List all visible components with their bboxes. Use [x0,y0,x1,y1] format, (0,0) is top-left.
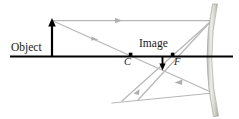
object-label: Object [11,42,42,54]
object-arrow [48,18,56,57]
image-arrow [159,57,165,71]
ray-focal-incident [122,19,214,101]
ray-diagram-figure: Object Image C F [0,0,239,119]
ray-arrowhead-lower-right [175,80,183,86]
ray-through-center-reflected [112,93,213,103]
center-of-curvature-label: C [124,57,131,68]
ray-group [52,19,214,103]
ray-arrowhead-top [115,18,122,23]
focal-point-label: F [174,57,180,68]
image-label: Image [139,38,168,50]
diagram-canvas [0,0,239,119]
ray-arrowhead-middle [91,36,99,40]
